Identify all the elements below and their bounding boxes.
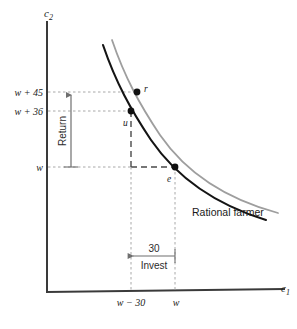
point-u[interactable] <box>128 108 135 115</box>
point-label-u: u <box>123 118 128 128</box>
indifference-curve-figure: r u e Return 30 Invest Rational farmer w… <box>0 0 297 329</box>
x-tick-label-w-minus-30: w − 30 <box>117 297 145 308</box>
y-tick-label-w-plus-36: w + 36 <box>15 106 43 117</box>
point-label-r: r <box>144 84 148 94</box>
curves-group <box>103 40 278 220</box>
x-axis-title: c1 <box>281 282 290 297</box>
x-axis-title-subscript: 1 <box>286 288 290 297</box>
x-axis-line <box>47 289 284 292</box>
point-label-e: e <box>167 174 171 184</box>
return-label: Return <box>57 116 68 146</box>
point-r[interactable] <box>134 89 141 96</box>
point-e[interactable] <box>172 164 179 171</box>
invest-label: Invest <box>141 260 168 271</box>
diagram-canvas: r u e Return 30 Invest Rational farmer w… <box>0 0 297 329</box>
y-axis-title-subscript: 2 <box>49 13 53 22</box>
y-tick-label-w: w <box>36 162 43 173</box>
return-annotation: Return <box>57 95 78 167</box>
y-axis-title: c2 <box>44 7 53 22</box>
y-tick-label-w-plus-45: w + 45 <box>15 87 43 98</box>
lower-indifference-curve <box>103 45 266 220</box>
invest-annotation: 30 Invest <box>133 243 175 271</box>
curve-label-rational-farmer: Rational farmer <box>192 206 264 218</box>
upper-indifference-curve <box>112 40 278 213</box>
data-points-group <box>128 89 179 171</box>
invest-amount-label: 30 <box>148 243 160 254</box>
x-tick-label-w: w <box>173 297 180 308</box>
